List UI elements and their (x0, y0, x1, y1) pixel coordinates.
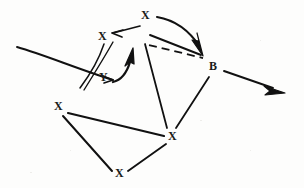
arrowhead-x-top-to-x-upper-left (112, 30, 123, 37)
arrowhead-b-to-outgoing-right (264, 86, 285, 95)
node-x-left[interactable]: X (54, 100, 63, 112)
edge-x-middle-to-b (176, 77, 209, 128)
edge-x-left-to-x-bottom (63, 116, 112, 171)
diagram-canvas: X X Y B X X X (0, 0, 304, 188)
node-x-upper-left[interactable]: X (98, 30, 107, 42)
edge-y-to-x-top (113, 62, 130, 82)
edge-x-left-to-x-middle (68, 113, 164, 136)
edge-x-top-to-b-dashed (149, 45, 203, 58)
node-x-top[interactable]: X (141, 9, 150, 21)
node-x-bottom[interactable]: X (115, 167, 124, 179)
node-b[interactable]: B (209, 60, 217, 72)
edge-b-to-outgoing-right (224, 71, 273, 88)
edge-x-bottom-to-x-middle (128, 144, 166, 171)
node-y[interactable]: Y (99, 71, 108, 83)
diagram-strokes (0, 0, 304, 188)
edge-x-middle-to-x-top (145, 44, 167, 128)
node-x-middle[interactable]: X (168, 130, 177, 142)
